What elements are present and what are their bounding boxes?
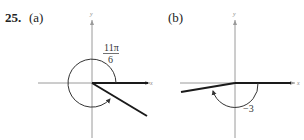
diagram-b: y x −3 — [180, 11, 300, 138]
diagram-a: y x 11π 6 — [38, 11, 153, 138]
y-axis-label-a: y — [89, 11, 93, 17]
y-axis-label-b: y — [232, 11, 236, 17]
x-axis-label-b: x — [296, 80, 300, 86]
terminal-side-a — [92, 83, 147, 116]
x-axis-label-a: x — [149, 80, 153, 86]
angle-diagrams: y x 11π 6 y x −3 — [0, 0, 304, 140]
terminal-side-b — [181, 83, 235, 92]
angle-denominator-a: 6 — [108, 54, 113, 65]
angle-label-b: −3 — [243, 103, 254, 114]
angle-numerator-a: 11π — [104, 42, 119, 53]
